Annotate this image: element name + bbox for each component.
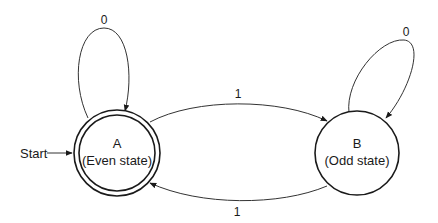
state-a-description: (Even state): [82, 153, 152, 168]
edge-b-to-a: [150, 183, 327, 201]
start-arrow: Start: [20, 146, 72, 161]
transition-a-to-a: 0: [78, 13, 129, 118]
transition-label: 1: [235, 87, 242, 101]
start-label: Start: [20, 146, 48, 161]
transition-a-to-b: 1: [150, 87, 327, 122]
state-a-name: A: [113, 136, 122, 151]
self-loop-a: [78, 28, 129, 118]
transition-label: 0: [101, 13, 108, 27]
state-diagram: Start 0 1 0 1 A (Even state) B (Odd stat…: [0, 0, 438, 223]
transition-b-to-a: 1: [150, 183, 327, 219]
state-b: B (Odd state): [315, 111, 399, 195]
self-loop-b: [349, 40, 414, 118]
state-a: A (Even state): [74, 110, 160, 196]
edge-a-to-b: [150, 104, 327, 122]
state-b-description: (Odd state): [324, 153, 389, 168]
state-b-name: B: [353, 136, 362, 151]
transition-b-to-b: 0: [349, 25, 414, 118]
transition-label: 0: [403, 25, 410, 39]
transition-label: 1: [234, 205, 241, 219]
